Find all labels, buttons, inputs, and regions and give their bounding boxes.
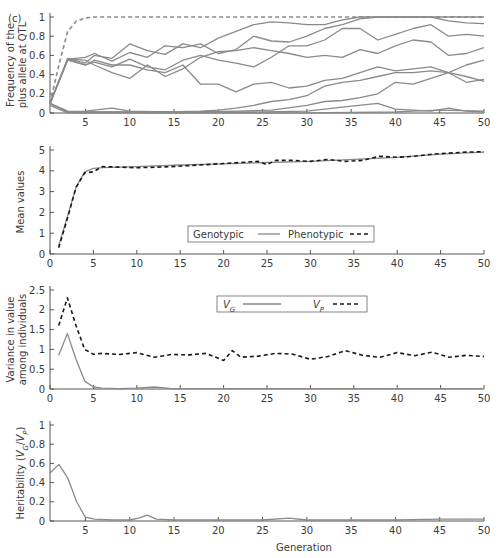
y-tick-label: 0.8 — [29, 31, 45, 42]
x-tick-label: 30 — [304, 258, 317, 269]
x-tick-label: 30 — [300, 525, 313, 536]
legend-label-phenotypic: Phenotypic — [288, 229, 343, 240]
y-tick-label: 1.5 — [29, 324, 45, 335]
x-tick-label: 15 — [168, 525, 181, 536]
y-axis-title: among individuals — [17, 294, 28, 386]
x-tick-label: 35 — [345, 117, 358, 128]
y-tick-label: 1 — [39, 344, 45, 355]
y-tick-label: 0.2 — [29, 496, 45, 507]
x-tick-label: 40 — [389, 525, 402, 536]
x-tick-label: 45 — [434, 258, 447, 269]
x-tick-label: 20 — [212, 525, 225, 536]
x-tick-label: 5 — [82, 117, 88, 128]
x-tick-label: 15 — [174, 393, 187, 404]
x-tick-label: 5 — [82, 525, 88, 536]
x-tick-label: 30 — [300, 117, 313, 128]
y-axis-title: Frequency of the — [5, 23, 16, 107]
x-tick-label: 25 — [261, 393, 274, 404]
series-line — [59, 334, 484, 389]
y-axis-title: Mean values — [15, 171, 26, 234]
legend-box — [217, 296, 367, 312]
y-tick-label: 0.8 — [29, 439, 45, 450]
x-tick-label: 35 — [345, 525, 358, 536]
series-line — [50, 464, 484, 520]
x-tick-label: 30 — [304, 393, 317, 404]
variance-chart: 00.511.522.505101520253035404550Variance… — [5, 285, 490, 405]
y-axis-title: Heritability (VG/VP) — [15, 426, 30, 519]
heritability-chart: 00.20.40.60.815101520253035404550Heritab… — [15, 420, 490, 537]
series-line — [50, 73, 484, 112]
y-tick-label: 0 — [39, 384, 45, 395]
x-tick-label: 25 — [256, 117, 269, 128]
y-tick-label: 0.6 — [29, 458, 45, 469]
x-tick-label: 40 — [389, 117, 402, 128]
x-tick-label: 10 — [130, 393, 143, 404]
series-line — [50, 71, 484, 112]
x-tick-label: 20 — [217, 393, 230, 404]
x-tick-label: 35 — [347, 393, 360, 404]
y-tick-label: 1 — [39, 420, 45, 431]
x-tick-label: 5 — [90, 258, 96, 269]
y-tick-label: 3 — [39, 186, 45, 197]
x-tick-label: 45 — [433, 525, 446, 536]
x-tick-label: 40 — [391, 258, 404, 269]
mean-values-chart: 01234505101520253035404550Mean valuesGen… — [15, 145, 490, 270]
y-tick-label: 1 — [39, 12, 45, 23]
x-tick-label: 45 — [433, 117, 446, 128]
y-tick-label: 0.4 — [29, 477, 45, 488]
series-line — [50, 25, 484, 104]
x-tick-label: 5 — [90, 393, 96, 404]
y-tick-label: 0.4 — [29, 69, 45, 80]
y-tick-label: 0 — [39, 516, 45, 527]
x-tick-label: 10 — [123, 117, 136, 128]
legend-label-genotypic: Genotypic — [193, 229, 244, 240]
y-tick-label: 0 — [39, 249, 45, 260]
x-tick-label: 35 — [347, 258, 360, 269]
y-tick-label: 0.2 — [29, 88, 45, 99]
x-tick-label: 40 — [391, 393, 404, 404]
x-tick-label: 50 — [478, 117, 491, 128]
y-tick-label: 2 — [39, 304, 45, 315]
x-tick-label: 0 — [47, 258, 53, 269]
x-axis-title: Generation — [276, 542, 332, 553]
x-tick-label: 25 — [261, 258, 274, 269]
allele-frequency-chart: 00.20.40.60.815101520253035404550Frequen… — [5, 12, 490, 129]
x-tick-label: 25 — [256, 525, 269, 536]
x-tick-label: 0 — [47, 393, 53, 404]
x-tick-label: 45 — [434, 393, 447, 404]
y-axis-title: Variance in value — [5, 297, 16, 383]
x-tick-label: 20 — [217, 258, 230, 269]
y-tick-label: 2 — [39, 207, 45, 218]
y-tick-label: 4 — [39, 165, 45, 176]
y-tick-label: 5 — [39, 145, 45, 156]
y-tick-label: 2.5 — [29, 285, 45, 296]
y-tick-label: 1 — [39, 228, 45, 239]
x-tick-label: 50 — [478, 393, 491, 404]
y-axis-title: plus allele at QTL — [17, 21, 28, 108]
x-tick-label: 20 — [212, 117, 225, 128]
x-tick-label: 10 — [130, 258, 143, 269]
x-tick-label: 15 — [168, 117, 181, 128]
x-tick-label: 50 — [478, 258, 491, 269]
figure-canvas: (c) 00.20.40.60.815101520253035404550Fre… — [0, 0, 499, 558]
y-tick-label: 0.6 — [29, 50, 45, 61]
y-tick-label: 0.5 — [29, 364, 45, 375]
x-tick-label: 10 — [123, 525, 136, 536]
x-tick-label: 50 — [478, 525, 491, 536]
y-tick-label: 0 — [39, 108, 45, 119]
x-tick-label: 15 — [174, 258, 187, 269]
